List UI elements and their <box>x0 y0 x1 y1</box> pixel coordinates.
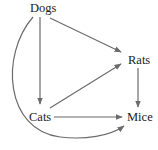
edge-dogs-rats <box>50 18 121 52</box>
directed-graph: Dogs Rats Cats Mice <box>0 0 158 150</box>
node-dogs: Dogs <box>30 1 57 15</box>
node-rats: Rats <box>128 53 150 67</box>
edge-cats-rats <box>50 64 121 108</box>
node-cats: Cats <box>29 110 51 124</box>
node-mice: Mice <box>127 110 153 124</box>
